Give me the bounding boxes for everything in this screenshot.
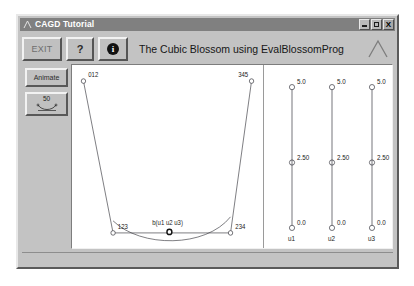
sliders-diagram[interactable]: 5.02.500.0u15.02.500.0u25.02.500.0u3 (264, 65, 392, 248)
slider-current-value: 2.50 (337, 154, 350, 161)
curve-plot[interactable]: 012123234345 b(u1 u2 u3) (72, 65, 263, 248)
slider-current-value: 2.50 (297, 154, 310, 161)
control-point-label: 012 (88, 71, 99, 78)
page-title: The Cubic Blossom using EvalBlossomProg (132, 43, 365, 55)
close-button[interactable]: X (383, 19, 394, 30)
blossom-point-group[interactable]: b(u1 u2 u3) (152, 219, 183, 235)
slider-max-value: 5.0 (377, 78, 386, 85)
animate-button[interactable]: Animate (25, 68, 68, 87)
control-point-marker[interactable] (81, 79, 85, 84)
toolbar: EXIT ? i The Cubic Blossom using EvalBlo… (22, 34, 393, 64)
slider-max-handle[interactable] (329, 85, 334, 90)
animate-label: Animate (34, 74, 60, 81)
slider-label-u1: u1 (288, 235, 295, 242)
blossom-point-marker[interactable] (167, 229, 172, 234)
control-point-group: 012123234345 (81, 71, 253, 235)
slider-max-handle[interactable] (369, 85, 374, 90)
slider-u1[interactable]: 5.02.500.0u1 (288, 78, 310, 242)
slider-max-value: 5.0 (297, 78, 306, 85)
slider-label-u2: u2 (328, 235, 335, 242)
blossom-diagram[interactable]: 012123234345 b(u1 u2 u3) (72, 65, 263, 248)
control-point-marker[interactable] (228, 231, 232, 236)
app-icon (23, 20, 32, 29)
info-icon: i (107, 43, 119, 55)
slider-max-value: 5.0 (337, 78, 346, 85)
slider-u3[interactable]: 5.02.500.0u3 (368, 78, 390, 242)
content-area: Animate 50 0121 (22, 64, 393, 249)
slider-min-handle[interactable] (289, 225, 294, 230)
exit-button[interactable]: EXIT (22, 37, 62, 61)
control-point-label: 345 (238, 71, 249, 78)
slider-min-handle[interactable] (329, 225, 334, 230)
slider-label-u3: u3 (368, 235, 375, 242)
help-button[interactable]: ? (66, 37, 94, 61)
slider-min-value: 0.0 (377, 219, 386, 226)
minimize-button[interactable] (359, 19, 370, 30)
slider-current-value: 2.50 (377, 154, 390, 161)
title-bar: CAGD Tutorial X (20, 18, 395, 31)
slider-min-value: 0.0 (337, 219, 346, 226)
blossom-point-label: b(u1 u2 u3) (152, 219, 183, 226)
info-button[interactable]: i (98, 37, 128, 61)
steps-button[interactable]: 50 (25, 92, 68, 116)
slider-u2[interactable]: 5.02.500.0u2 (328, 78, 350, 242)
lambda-logo-icon (365, 36, 391, 62)
curve-icon (36, 102, 58, 113)
slider-max-handle[interactable] (289, 85, 294, 90)
side-panel: Animate 50 (22, 64, 71, 249)
slider-min-handle[interactable] (369, 225, 374, 230)
window-title: CAGD Tutorial (35, 18, 358, 31)
drawing-canvas[interactable]: 012123234345 b(u1 u2 u3) 5.02.500.0u15.0… (71, 64, 393, 249)
control-point-label: 234 (235, 223, 246, 230)
application-window: CAGD Tutorial X EXIT ? i The Cubic Bloss… (16, 14, 399, 269)
control-point-label: 123 (118, 223, 129, 230)
status-bar (22, 252, 393, 264)
parameter-sliders[interactable]: 5.02.500.0u15.02.500.0u25.02.500.0u3 (264, 65, 392, 248)
control-point-marker[interactable] (249, 79, 253, 84)
maximize-button[interactable] (371, 19, 382, 30)
control-point-marker[interactable] (111, 231, 115, 236)
control-polygon (83, 81, 251, 233)
slider-min-value: 0.0 (297, 219, 306, 226)
